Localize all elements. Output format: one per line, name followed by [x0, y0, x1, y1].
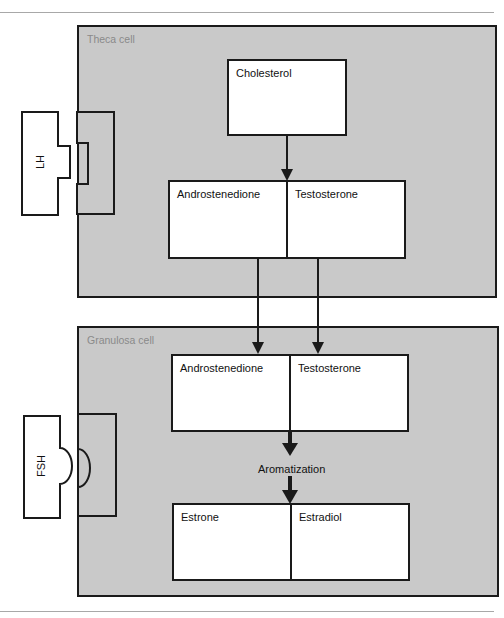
arrow-testosterone-transfer: [312, 259, 324, 354]
arrow-cholesterol-to-androgens: [281, 136, 293, 181]
fsh-ligand-shape: [24, 416, 72, 518]
lh-receptor-shape: [77, 112, 114, 214]
lh-ligand-shape: [22, 112, 70, 215]
fsh-label: FSH: [35, 455, 47, 477]
arrow-to-estrogens: [282, 476, 298, 504]
arrow-to-aromatization: [282, 432, 298, 456]
diagram-shapes: [0, 0, 504, 618]
arrow-androstenedione-transfer: [252, 259, 264, 354]
fsh-receptor-shape: [78, 414, 116, 516]
lh-label: LH: [34, 155, 46, 169]
